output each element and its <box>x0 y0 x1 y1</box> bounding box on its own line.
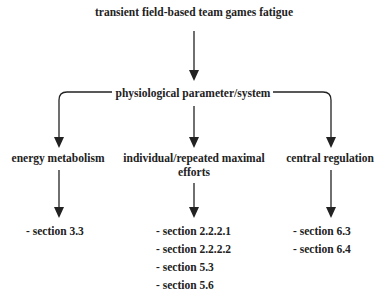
section-item: - section 2.2.2.1 <box>156 222 231 240</box>
energy-metabolism-node: energy metabolism <box>12 151 105 165</box>
arrowhead-icon <box>189 70 199 81</box>
section-item: - section 6.3 <box>293 222 351 240</box>
section-item: - section 5.3 <box>156 258 231 276</box>
section-item: - section 3.3 <box>26 222 84 240</box>
maximal-efforts-line2: efforts <box>123 165 264 179</box>
parameter-node: physiological parameter/system <box>116 86 271 100</box>
arrowhead-icon <box>189 207 199 218</box>
arrow-to-energy-metabolism <box>59 92 112 138</box>
maximal-efforts-node: individual/repeated maximal efforts <box>123 151 264 179</box>
arrowhead-icon <box>54 207 64 218</box>
central-sections-list: - section 6.3 - section 6.4 <box>293 222 351 258</box>
efforts-sections-list: - section 2.2.2.1 - section 2.2.2.2 - se… <box>156 222 231 294</box>
section-item: - section 5.6 <box>156 276 231 294</box>
arrowhead-icon <box>54 137 64 148</box>
maximal-efforts-line1: individual/repeated maximal <box>123 151 264 165</box>
arrowhead-icon <box>326 207 336 218</box>
central-regulation-node: central regulation <box>286 151 374 165</box>
root-node: transient field-based team games fatigue <box>95 5 293 19</box>
arrowhead-icon <box>189 137 199 148</box>
energy-sections-list: - section 3.3 <box>26 222 84 240</box>
section-item: - section 2.2.2.2 <box>156 240 231 258</box>
arrowhead-icon <box>326 137 336 148</box>
section-item: - section 6.4 <box>293 240 351 258</box>
arrow-to-central-regulation <box>273 92 331 138</box>
